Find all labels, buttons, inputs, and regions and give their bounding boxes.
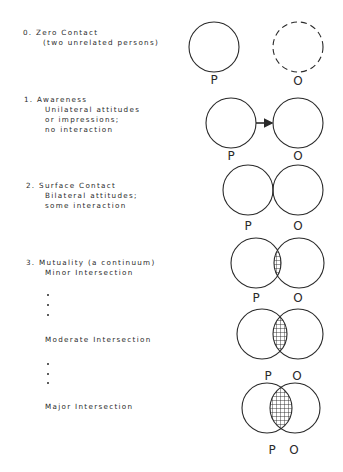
moderate-intersection-diagram: P O bbox=[237, 309, 323, 383]
stage-1-diagram: P O bbox=[206, 98, 323, 163]
p-label: P bbox=[210, 73, 217, 87]
person-p-circle bbox=[189, 22, 239, 72]
person-o-dashed-circle bbox=[273, 22, 323, 72]
o-label: O bbox=[292, 369, 301, 383]
person-o-circle bbox=[273, 165, 323, 215]
levels-of-relationship-diagram: P O P O P O P O P O P O bbox=[0, 0, 343, 472]
p-label: P bbox=[268, 443, 275, 457]
major-intersection-diagram: P O bbox=[242, 383, 320, 457]
p-label: P bbox=[252, 291, 259, 305]
person-p-circle bbox=[206, 98, 256, 148]
person-o-circle bbox=[273, 98, 323, 148]
p-label: P bbox=[227, 149, 234, 163]
minor-intersection-diagram: P O bbox=[231, 238, 324, 305]
p-label: P bbox=[264, 369, 271, 383]
p-label: P bbox=[244, 219, 251, 233]
o-label: O bbox=[289, 443, 298, 457]
person-p-circle bbox=[223, 165, 273, 215]
stage-0-diagram: P O bbox=[189, 22, 323, 88]
o-label: O bbox=[293, 291, 302, 305]
stage-2-diagram: P O bbox=[223, 165, 323, 233]
o-label: O bbox=[293, 149, 302, 163]
o-label: O bbox=[293, 74, 302, 88]
o-label: O bbox=[293, 219, 302, 233]
